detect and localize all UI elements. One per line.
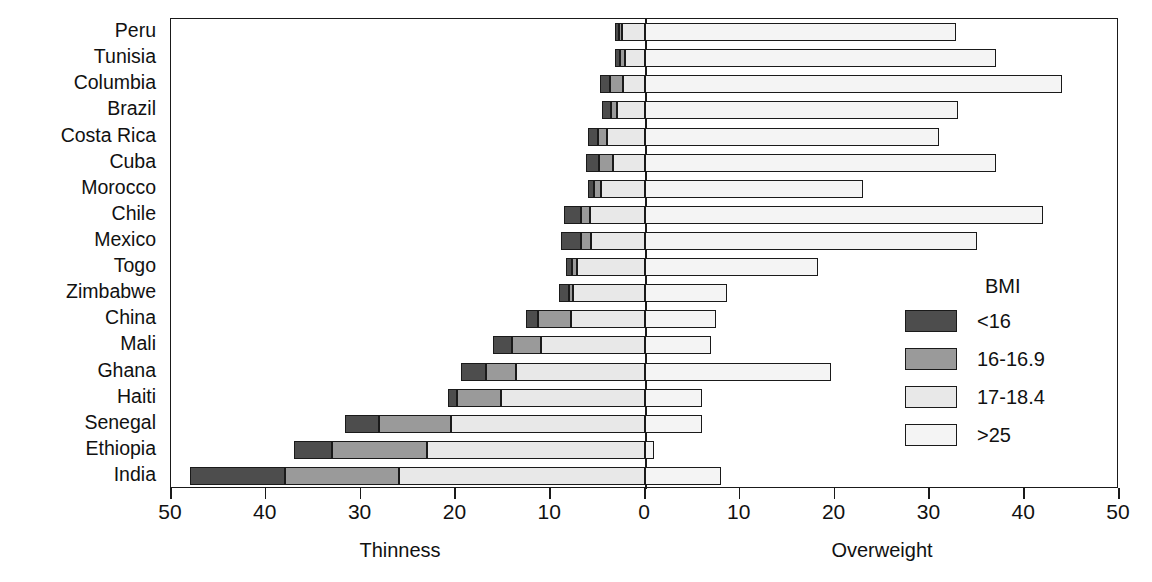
bar-segment bbox=[564, 206, 581, 224]
bar-segment bbox=[590, 206, 645, 224]
y-axis-tick-label: Ethiopia bbox=[0, 439, 156, 459]
legend-item-label: >25 bbox=[977, 424, 1011, 446]
bar-segment bbox=[625, 49, 645, 67]
bar-segment bbox=[559, 284, 569, 302]
bar-segment bbox=[607, 128, 645, 146]
bar-segment bbox=[622, 23, 645, 41]
legend-item[interactable]: <16 bbox=[905, 310, 1105, 336]
x-axis-tick-label: 50 bbox=[1088, 501, 1148, 522]
bar-segment bbox=[588, 128, 597, 146]
y-axis-tick-label: China bbox=[0, 308, 156, 328]
y-axis-tick-label: Brazil bbox=[0, 99, 156, 119]
bar-segment bbox=[645, 258, 818, 276]
y-axis-tick-label: Mexico bbox=[0, 230, 156, 250]
bar-segment bbox=[610, 75, 623, 93]
bar-segment bbox=[601, 180, 645, 198]
bar-segment bbox=[538, 310, 571, 328]
bar-segment bbox=[602, 101, 611, 119]
x-axis-tick bbox=[1023, 488, 1025, 499]
legend-swatch bbox=[905, 348, 957, 370]
bar-segment bbox=[645, 75, 1062, 93]
bar-segment bbox=[427, 441, 645, 459]
y-axis-tick-label: Senegal bbox=[0, 413, 156, 433]
y-axis-tick-label: Costa Rica bbox=[0, 126, 156, 146]
bar-segment bbox=[399, 467, 645, 485]
bar-segment bbox=[285, 467, 399, 485]
x-axis-tick bbox=[928, 488, 930, 499]
x-axis-tick bbox=[549, 488, 551, 499]
y-axis-tick-label: Togo bbox=[0, 256, 156, 276]
x-axis: 504030201001020304050 bbox=[170, 488, 1118, 508]
bar-segment bbox=[613, 154, 645, 172]
bar-segment bbox=[190, 467, 285, 485]
legend-item[interactable]: 17-18.4 bbox=[905, 386, 1105, 412]
bar-segment bbox=[448, 389, 457, 407]
bar-segment bbox=[577, 258, 645, 276]
bar-segment bbox=[541, 336, 645, 354]
bar-segment bbox=[516, 363, 645, 381]
y-axis-tick-label: Mali bbox=[0, 334, 156, 354]
bar-segment bbox=[645, 180, 863, 198]
bar-segment bbox=[486, 363, 516, 381]
x-axis-tick-label: 30 bbox=[330, 501, 390, 522]
bar-segment bbox=[645, 154, 996, 172]
bar-segment bbox=[526, 310, 538, 328]
bar-segment bbox=[571, 310, 645, 328]
bar-segment bbox=[645, 441, 654, 459]
y-axis-tick-label: Columbia bbox=[0, 73, 156, 93]
x-axis-right-title: Overweight bbox=[772, 540, 992, 560]
x-axis-tick-label: 10 bbox=[519, 501, 579, 522]
legend-swatch bbox=[905, 386, 957, 408]
bar-segment bbox=[581, 206, 590, 224]
bar-segment bbox=[645, 284, 727, 302]
bar-segment bbox=[379, 415, 451, 433]
legend-item-label: 16-16.9 bbox=[977, 348, 1045, 370]
legend-item[interactable]: 16-16.9 bbox=[905, 348, 1105, 374]
legend-swatch bbox=[905, 424, 957, 446]
x-axis-tick bbox=[265, 488, 267, 499]
x-axis-tick bbox=[454, 488, 456, 499]
y-axis-tick-label: Zimbabwe bbox=[0, 282, 156, 302]
bar-segment bbox=[493, 336, 512, 354]
bar-segment bbox=[645, 310, 716, 328]
bar-segment bbox=[600, 75, 609, 93]
bmi-diverging-bar-chart: PeruTunisiaColumbiaBrazilCosta RicaCubaM… bbox=[0, 0, 1152, 582]
bar-segment bbox=[294, 441, 332, 459]
x-axis-tick-label: 50 bbox=[140, 501, 200, 522]
x-axis-tick bbox=[644, 488, 646, 499]
x-axis-tick-label: 40 bbox=[235, 501, 295, 522]
legend-title: BMI bbox=[985, 276, 1021, 296]
y-axis-tick-label: Peru bbox=[0, 21, 156, 41]
bar-segment bbox=[645, 415, 702, 433]
bar-segment bbox=[561, 232, 581, 250]
x-axis-tick bbox=[170, 488, 172, 499]
y-axis-tick-label: Ghana bbox=[0, 361, 156, 381]
x-axis-tick-label: 40 bbox=[993, 501, 1053, 522]
x-axis-tick-label: 0 bbox=[614, 501, 674, 522]
x-axis-tick bbox=[834, 488, 836, 499]
bar-segment bbox=[332, 441, 427, 459]
bar-segment bbox=[461, 363, 486, 381]
y-axis-tick-label: Haiti bbox=[0, 387, 156, 407]
legend-item[interactable]: >25 bbox=[905, 424, 1105, 450]
x-axis-tick bbox=[739, 488, 741, 499]
y-axis-country-labels: PeruTunisiaColumbiaBrazilCosta RicaCubaM… bbox=[0, 18, 164, 488]
y-axis-tick-label: Cuba bbox=[0, 152, 156, 172]
bar-segment bbox=[623, 75, 645, 93]
bar-segment bbox=[645, 101, 958, 119]
bar-segment bbox=[591, 232, 645, 250]
bar-segment bbox=[645, 206, 1043, 224]
bar-segment bbox=[581, 232, 591, 250]
x-axis-tick-label: 30 bbox=[898, 501, 958, 522]
x-axis-tick-label: 10 bbox=[709, 501, 769, 522]
bar-segment bbox=[573, 284, 645, 302]
bar-segment bbox=[645, 232, 977, 250]
x-axis-tick-label: 20 bbox=[804, 501, 864, 522]
bar-segment bbox=[645, 23, 956, 41]
legend: BMI <1616-16.917-18.4>25 bbox=[905, 276, 1105, 466]
bar-segment bbox=[598, 128, 607, 146]
legend-swatch bbox=[905, 310, 957, 332]
bar-segment bbox=[457, 389, 501, 407]
bar-segment bbox=[599, 154, 612, 172]
bar-segment bbox=[645, 467, 721, 485]
